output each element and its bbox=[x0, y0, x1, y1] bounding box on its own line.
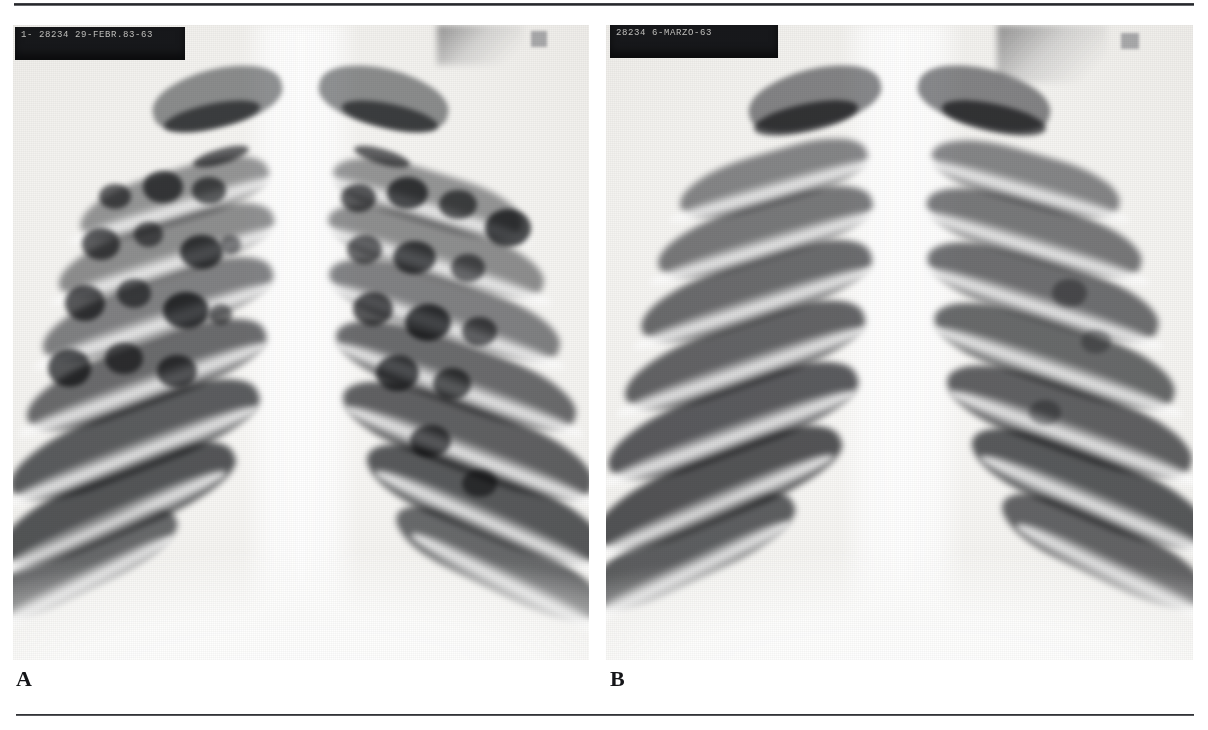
residual-marking-b-r-1 bbox=[1052, 279, 1087, 307]
infiltrate-a-r-8 bbox=[353, 292, 393, 326]
residual-marking-b-r-3 bbox=[1029, 400, 1061, 425]
infiltrate-a-r-1 bbox=[341, 184, 376, 212]
film-id-label-b: 28234 6-MARZO-63 bbox=[610, 25, 778, 58]
diaphragm-a bbox=[13, 533, 589, 660]
infiltrate-a-l-5 bbox=[134, 222, 163, 247]
infiltrate-a-l-7 bbox=[65, 285, 105, 321]
exposure-corner-patch-a bbox=[437, 25, 523, 65]
residual-marking-b-r-2 bbox=[1081, 330, 1110, 353]
figure-sheet: 1- 28234 29-FEBR.83-63 Chest radiograph … bbox=[0, 0, 1208, 730]
xray-image-b: 28234 6-MARZO-63 Follow-up chest radiogr… bbox=[606, 25, 1193, 660]
top-rule bbox=[14, 3, 1194, 6]
panel-label-b: B bbox=[610, 668, 625, 690]
film-id-line1-a: 1- 28234 29-FEBR.83-63 bbox=[21, 29, 175, 42]
infiltrate-a-r-5 bbox=[347, 235, 382, 264]
infiltrate-a-r-14 bbox=[462, 470, 497, 498]
infiltrate-a-r-6 bbox=[393, 241, 436, 274]
infiltrate-a-r-13 bbox=[410, 425, 450, 457]
infiltrate-a-r-11 bbox=[376, 355, 419, 391]
infiltrate-a-r-10 bbox=[462, 317, 497, 346]
infiltrate-a-l-2 bbox=[143, 171, 183, 203]
film-id-line1-b: 28234 6-MARZO-63 bbox=[616, 27, 768, 40]
film-id-label-a: 1- 28234 29-FEBR.83-63 bbox=[15, 27, 185, 60]
bottom-rule bbox=[16, 714, 1194, 716]
diaphragm-b bbox=[606, 533, 1193, 660]
infiltrate-a-l-6 bbox=[180, 235, 223, 269]
infiltrate-a-l-14 bbox=[220, 235, 240, 254]
radiograph-panel-b: 28234 6-MARZO-63 Follow-up chest radiogr… bbox=[606, 25, 1193, 660]
infiltrate-a-l-13 bbox=[209, 304, 232, 324]
infiltrate-a-l-10 bbox=[48, 349, 91, 387]
corner-marker-a bbox=[531, 31, 547, 47]
corner-marker-b bbox=[1121, 33, 1139, 49]
infiltrate-a-r-7 bbox=[451, 254, 486, 282]
exposure-corner-patch-b bbox=[997, 25, 1107, 83]
infiltrate-a-l-3 bbox=[192, 177, 227, 204]
radiograph-panel-a: 1- 28234 29-FEBR.83-63 Chest radiograph … bbox=[13, 25, 589, 660]
panel-label-a: A bbox=[16, 668, 32, 690]
infiltrate-a-l-1 bbox=[99, 184, 131, 209]
infiltrate-a-r-9 bbox=[405, 304, 451, 341]
infiltrate-a-l-4 bbox=[82, 228, 119, 260]
infiltrate-a-l-9 bbox=[163, 292, 209, 329]
infiltrate-a-l-11 bbox=[105, 343, 142, 375]
xray-image-a: 1- 28234 29-FEBR.83-63 Chest radiograph … bbox=[13, 25, 589, 660]
infiltrate-a-r-12 bbox=[433, 368, 470, 400]
infiltrate-a-r-3 bbox=[439, 190, 476, 219]
infiltrate-a-r-2 bbox=[387, 177, 427, 209]
